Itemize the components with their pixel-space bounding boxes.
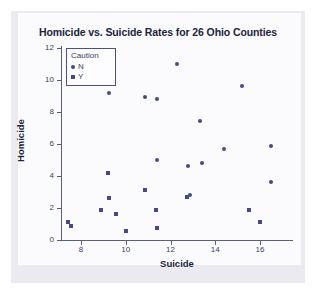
scatter-plot-figure: Homicide vs. Suicide Rates for 26 Ohio C…: [0, 0, 316, 294]
y-tick-mark: [57, 176, 61, 177]
square-marker-icon: [71, 75, 75, 79]
legend-entry-label: N: [78, 62, 84, 71]
data-point: [155, 158, 159, 162]
x-tick-label: 12: [161, 245, 181, 254]
data-point: [99, 208, 103, 212]
plot-area: Homicide Suicide 024681012 810121416 Cau…: [0, 0, 316, 294]
data-point: [175, 62, 179, 66]
data-point: [222, 147, 226, 151]
data-point: [143, 95, 147, 99]
data-point: [269, 144, 273, 148]
data-point: [124, 229, 128, 233]
data-point: [247, 208, 251, 212]
x-tick-label: 14: [205, 245, 225, 254]
data-point: [198, 119, 202, 123]
data-point: [69, 224, 73, 228]
y-tick-mark: [57, 240, 61, 241]
legend-entry-y[interactable]: Y: [71, 72, 83, 81]
y-tick-mark: [57, 144, 61, 145]
data-point: [154, 208, 158, 212]
data-point: [106, 171, 110, 175]
y-tick-label: 6: [38, 139, 54, 148]
x-axis-title: Suicide: [61, 258, 293, 269]
data-point: [200, 161, 204, 165]
y-tick-label: 8: [38, 107, 54, 116]
data-point: [185, 195, 189, 199]
y-tick-mark: [57, 80, 61, 81]
x-tick-label: 8: [71, 245, 91, 254]
y-tick-label: 12: [38, 43, 54, 52]
legend-box[interactable]: Caution NY: [66, 48, 116, 86]
y-tick-label: 0: [38, 235, 54, 244]
data-point: [155, 97, 159, 101]
data-point: [114, 212, 118, 216]
data-point: [143, 188, 147, 192]
data-point: [186, 164, 190, 168]
data-point: [107, 196, 111, 200]
y-axis-title: Homicide: [15, 101, 26, 181]
y-tick-mark: [57, 112, 61, 113]
legend-title: Caution: [71, 51, 99, 60]
y-tick-mark: [57, 208, 61, 209]
circle-marker-icon: [71, 65, 75, 69]
data-point: [269, 180, 273, 184]
x-tick-label: 16: [250, 245, 270, 254]
data-point: [240, 84, 244, 88]
y-tick-label: 2: [38, 203, 54, 212]
data-point: [155, 226, 159, 230]
data-point: [258, 220, 262, 224]
y-tick-mark: [57, 48, 61, 49]
x-tick-label: 10: [116, 245, 136, 254]
legend-entry-n[interactable]: N: [71, 62, 84, 71]
y-axis-line: [61, 46, 62, 241]
y-tick-label: 4: [38, 171, 54, 180]
x-axis-line: [61, 240, 293, 241]
legend-entry-label: Y: [78, 72, 83, 81]
y-tick-label: 10: [38, 75, 54, 84]
data-point: [107, 91, 111, 95]
